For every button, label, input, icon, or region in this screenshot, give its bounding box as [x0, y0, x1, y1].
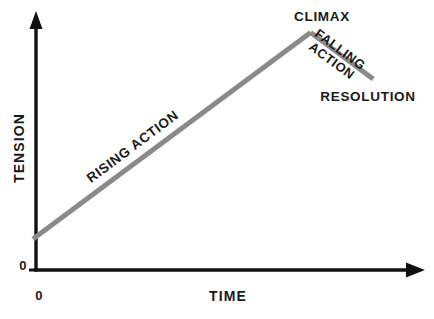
x-axis-arrowhead — [406, 263, 425, 278]
y-axis-origin-label: 0 — [19, 259, 27, 273]
x-axis-origin-label: 0 — [35, 289, 43, 303]
rising-action-line — [33, 33, 311, 239]
plot-diagram-graphic — [0, 0, 434, 319]
plot-diagram-canvas: TENSION TIME 0 0 CLIMAX RISING ACTION FA… — [0, 0, 434, 319]
climax-label: CLIMAX — [294, 10, 350, 24]
y-axis-arrowhead — [30, 11, 43, 29]
resolution-label: RESOLUTION — [320, 90, 416, 104]
x-axis-title: TIME — [209, 289, 247, 304]
y-axis-title: TENSION — [12, 113, 27, 183]
